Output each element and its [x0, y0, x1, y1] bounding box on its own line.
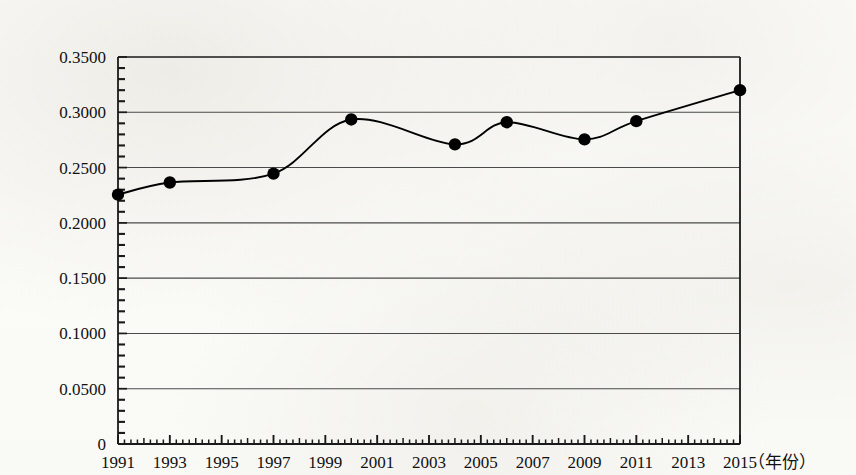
data-line [118, 90, 740, 194]
data-point-marker-2009 [578, 133, 590, 145]
y-tick-label: 0.3500 [59, 48, 106, 67]
data-point-marker-2011 [630, 115, 642, 127]
data-point-marker-2004 [449, 138, 461, 150]
x-tick-label: 2011 [620, 453, 653, 472]
y-tick-label: 0 [98, 435, 107, 454]
chart-canvas: 00.05000.10000.15000.20000.25000.30000.3… [0, 0, 856, 475]
y-axis-minor-ticks [118, 57, 127, 444]
x-tick-label: 2001 [360, 453, 394, 472]
y-axis-tick-labels: 00.05000.10000.15000.20000.25000.30000.3… [59, 48, 106, 454]
data-point-marker-1991 [112, 188, 124, 200]
y-tick-label: 0.1000 [59, 324, 106, 343]
y-tick-label: 0.2000 [59, 214, 106, 233]
x-tick-label: 2009 [568, 453, 602, 472]
data-point-marker-2000 [345, 113, 357, 125]
data-point-marker-1993 [164, 176, 176, 188]
x-tick-label: 1991 [101, 453, 135, 472]
data-point-marker-2015 [734, 84, 746, 96]
y-tick-label: 0.3000 [59, 103, 106, 122]
y-tick-label: 0.2500 [59, 159, 106, 178]
y-tick-label: 0.1500 [59, 269, 106, 288]
x-tick-label: 1999 [308, 453, 342, 472]
x-axis-tick-labels: 1991199319951997199920012003200520072009… [101, 453, 757, 472]
x-axis-unit-label: （年份） [748, 453, 816, 472]
x-tick-label: 1997 [257, 453, 292, 472]
x-axis-minor-ticks [118, 435, 740, 444]
line-chart: 00.05000.10000.15000.20000.25000.30000.3… [0, 0, 856, 475]
gridlines-group [118, 112, 740, 388]
x-tick-label: 2013 [671, 453, 705, 472]
data-markers-group [112, 84, 746, 201]
x-tick-label: 2007 [516, 453, 551, 472]
x-tick-label: 2003 [412, 453, 446, 472]
plot-frame [118, 57, 740, 444]
data-point-marker-1997 [267, 167, 279, 179]
x-tick-label: 2005 [464, 453, 498, 472]
data-point-marker-2006 [501, 116, 513, 128]
y-tick-label: 0.0500 [59, 380, 106, 399]
x-tick-label: 1993 [153, 453, 187, 472]
x-tick-label: 1995 [205, 453, 239, 472]
